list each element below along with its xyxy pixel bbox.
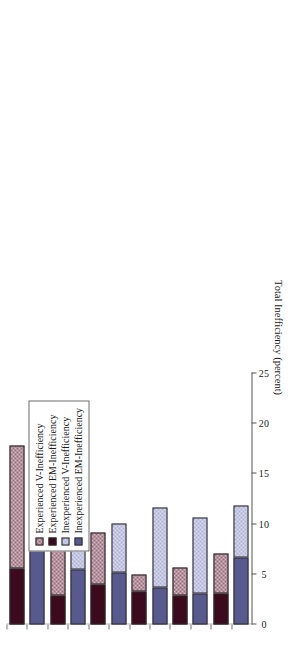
chart-page: 0510152025 CDACDAMCM-8CallsMCM-8CallsMCM… (0, 0, 294, 659)
stacked-bar (111, 523, 126, 624)
chart-legend: Experienced V-InefficiencyExperienced EM… (28, 400, 89, 551)
bar-segment-v-inefficiency (192, 517, 207, 593)
category-tick (231, 624, 232, 629)
bar-segment-v-inefficiency (152, 507, 167, 587)
category-tick (129, 624, 130, 629)
category-tick (88, 624, 89, 629)
bar-segment-em-inefficiency (172, 595, 187, 624)
stacked-bar (233, 505, 248, 624)
stacked-bar (152, 507, 167, 624)
bar-segment-v-inefficiency (90, 532, 105, 584)
legend-swatch (35, 537, 43, 545)
legend-label: Experienced EM-Inefficiency (47, 414, 57, 533)
legend-item: Inexperienced V-Inefficiency (60, 407, 70, 545)
legend-swatch (74, 537, 82, 545)
legend-label: Experienced V-Inefficiency (34, 423, 44, 533)
bar-segment-em-inefficiency (9, 568, 24, 624)
bar-segment-v-inefficiency (213, 553, 228, 593)
bar-segment-em-inefficiency (192, 593, 207, 624)
bar-segment-em-inefficiency (213, 593, 228, 624)
bar-segment-em-inefficiency (70, 569, 85, 624)
legend-item: Inexperienced EM-Inefficiency (73, 407, 83, 545)
stacked-bar (172, 567, 187, 624)
stacked-bar (90, 532, 105, 624)
rotated-chart-canvas: 0510152025 CDACDAMCM-8CallsMCM-8CallsMCM… (0, 0, 294, 659)
bar-segment-em-inefficiency (152, 587, 167, 624)
category-tick (190, 624, 191, 629)
stacked-bar (9, 445, 24, 624)
bar-segment-em-inefficiency (50, 595, 65, 624)
category-tick (108, 624, 109, 629)
stacked-bar (213, 553, 228, 624)
legend-label: Inexperienced V-Inefficiency (60, 416, 70, 533)
bar-segment-em-inefficiency (131, 591, 146, 624)
bar-segment-v-inefficiency (131, 574, 146, 591)
legend-label: Inexperienced EM-Inefficiency (73, 407, 83, 533)
bar-segment-em-inefficiency (90, 584, 105, 624)
legend-swatch (61, 537, 69, 545)
bar-segment-v-inefficiency (111, 523, 126, 572)
legend-item: Experienced EM-Inefficiency (47, 407, 57, 545)
legend-item: Experienced V-Inefficiency (34, 407, 44, 545)
bar-segment-v-inefficiency (233, 505, 248, 557)
category-tick (47, 624, 48, 629)
category-tick (169, 624, 170, 629)
stacked-bar (131, 574, 146, 624)
bar-segment-em-inefficiency (111, 572, 126, 624)
bar-segment-em-inefficiency (29, 548, 44, 624)
bar-segment-v-inefficiency (172, 567, 187, 595)
category-tick (67, 624, 68, 629)
bar-segment-v-inefficiency (9, 445, 24, 567)
category-tick (210, 624, 211, 629)
category-tick (26, 624, 27, 629)
legend-swatch (48, 537, 56, 545)
value-axis-title: Total Inefficiency (percent) (272, 237, 283, 437)
category-tick (149, 624, 150, 629)
category-tick (6, 624, 7, 629)
bar-segment-em-inefficiency (233, 557, 248, 624)
stacked-bar (192, 517, 207, 624)
